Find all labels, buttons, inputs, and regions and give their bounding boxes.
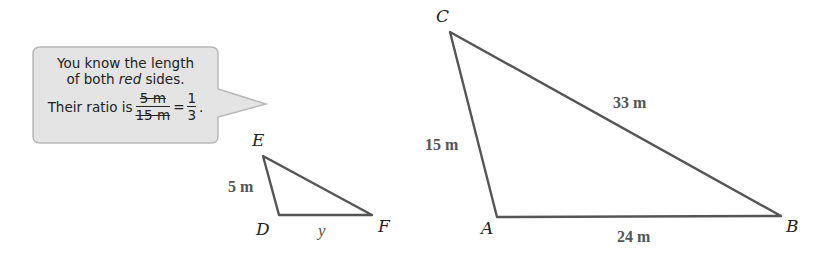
fraction-denominator: 15 m (136, 107, 171, 123)
vertex-label-D: D (256, 219, 270, 239)
vertex-label-E: E (252, 130, 264, 150)
fraction-numerator: 5 m (140, 90, 166, 106)
callout-line-2: of both red sides. (33, 71, 218, 87)
callout-red-word: red (119, 71, 141, 87)
similar-triangles-diagram: You know the length of both red sides. T… (0, 0, 836, 256)
simplified-fraction: 1 3 (187, 90, 196, 123)
side-length-AB: 24 m (617, 228, 650, 246)
ratio-fraction: 5 m 15 m (136, 90, 171, 123)
large-triangle-ABC (450, 32, 781, 217)
simplified-denominator: 3 (187, 107, 196, 123)
simplified-numerator: 1 (187, 90, 196, 106)
side-length-DF: y (318, 221, 326, 241)
callout-line-2-post: sides. (141, 71, 184, 87)
side-length-DE: 5 m (228, 178, 253, 196)
side-length-BC: 33 m (613, 94, 646, 112)
vertex-label-C: C (436, 6, 449, 26)
callout-ratio-line: Their ratio is 5 m 15 m = 1 3 . (33, 90, 218, 123)
equals-sign: = (173, 99, 184, 115)
ratio-label: Their ratio is (48, 99, 133, 115)
callout-text: You know the length of both red sides. T… (33, 48, 218, 143)
vertex-label-F: F (378, 216, 390, 236)
vertex-label-A: A (481, 218, 493, 238)
period: . (199, 99, 203, 115)
vertex-label-B: B (786, 216, 799, 236)
callout-line-2-pre: of both (67, 71, 119, 87)
small-triangle-DEF (263, 156, 372, 215)
side-length-AC: 15 m (425, 136, 458, 154)
callout-line-1: You know the length (33, 55, 218, 71)
